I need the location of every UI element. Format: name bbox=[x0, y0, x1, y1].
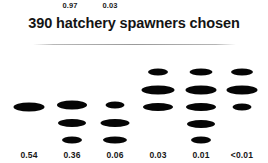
data-marker bbox=[143, 103, 173, 111]
data-marker bbox=[103, 137, 127, 144]
x-axis-tick-label: 0.06 bbox=[106, 150, 123, 160]
x-axis-tick-label: 0.36 bbox=[63, 150, 80, 160]
page-title: 390 hatchery spawners chosen bbox=[28, 15, 240, 31]
data-marker bbox=[231, 69, 253, 76]
data-marker bbox=[142, 86, 175, 95]
data-marker bbox=[190, 69, 213, 76]
data-marker bbox=[148, 69, 168, 76]
data-marker bbox=[106, 102, 125, 109]
x-axis-tick-label: 0.01 bbox=[192, 150, 209, 160]
data-marker bbox=[191, 137, 211, 144]
top-label: 0.03 bbox=[103, 1, 118, 10]
data-marker bbox=[186, 86, 217, 95]
data-marker bbox=[62, 137, 82, 144]
data-marker bbox=[233, 104, 252, 111]
data-marker bbox=[186, 103, 216, 111]
figure-canvas: 0.970.03 390 hatchery spawners chosen 0.… bbox=[0, 0, 268, 163]
data-marker bbox=[227, 86, 258, 95]
data-marker bbox=[101, 119, 130, 127]
horizontal-divider bbox=[33, 44, 236, 45]
data-marker bbox=[57, 101, 87, 110]
x-axis-tick-label: 0.54 bbox=[20, 150, 37, 160]
data-marker bbox=[14, 103, 45, 112]
top-label: 0.97 bbox=[63, 1, 78, 10]
data-marker bbox=[187, 120, 215, 128]
x-axis-tick-label: <0.01 bbox=[231, 150, 253, 160]
data-marker bbox=[58, 119, 86, 127]
x-axis-tick-label: 0.03 bbox=[149, 150, 166, 160]
